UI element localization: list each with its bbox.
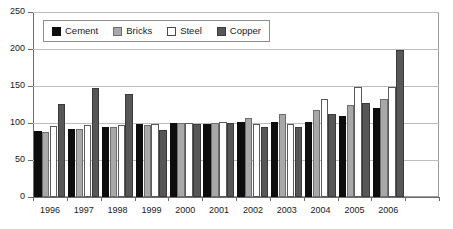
- bar-cement-2002: [237, 122, 244, 197]
- bar-steel-2002: [253, 124, 260, 197]
- x-tick-mark-2006: [371, 197, 372, 201]
- x-tick-mark-1999: [135, 197, 136, 201]
- legend-label-cement: Cement: [65, 26, 98, 36]
- bar-steel-2003: [287, 124, 294, 197]
- x-tick-label-2001: 2001: [202, 205, 236, 215]
- x-tick-mark-2003: [270, 197, 271, 201]
- x-tick-mark-end-12: [439, 197, 440, 201]
- y-tick-label-250: 250: [0, 7, 25, 16]
- bar-cement-1999: [136, 124, 143, 197]
- bar-steel-1998: [118, 125, 125, 197]
- bar-cement-2000: [170, 123, 177, 197]
- bar-cement-2005: [339, 116, 346, 197]
- y-tick-label-100: 100: [0, 118, 25, 127]
- bar-copper-2001: [227, 123, 234, 197]
- bar-bricks-2006: [380, 99, 387, 197]
- x-tick-label-1996: 1996: [33, 205, 67, 215]
- legend-label-steel: Steel: [180, 26, 202, 36]
- x-tick-mark-2001: [202, 197, 203, 201]
- x-tick-mark-1996: [33, 197, 34, 201]
- legend-swatch-steel-icon: [167, 27, 176, 36]
- bar-copper-1996: [58, 104, 65, 197]
- bar-group-2005: [339, 12, 370, 197]
- bar-bricks-1996: [42, 132, 49, 197]
- bar-steel-1996: [50, 126, 57, 197]
- bar-steel-1997: [84, 125, 91, 197]
- legend-item-cement[interactable]: Cement: [52, 26, 98, 36]
- bar-group-2003: [271, 12, 302, 197]
- x-tick-mark-1997: [67, 197, 68, 201]
- bar-bricks-1997: [76, 129, 83, 197]
- legend-swatch-cement-icon: [52, 27, 61, 36]
- y-tick-label-200: 200: [0, 44, 25, 53]
- x-tick-mark-2004: [304, 197, 305, 201]
- bar-copper-1998: [125, 94, 132, 197]
- x-tick-label-2000: 2000: [168, 205, 202, 215]
- bar-copper-2003: [295, 127, 302, 197]
- bar-cement-1997: [68, 129, 75, 197]
- bar-cement-2001: [203, 124, 210, 197]
- legend-swatch-copper-icon: [217, 27, 226, 36]
- bar-steel-2006: [388, 87, 395, 197]
- bar-cement-2004: [305, 122, 312, 197]
- x-tick-label-2004: 2004: [304, 205, 338, 215]
- bar-bricks-1998: [110, 127, 117, 197]
- bar-copper-2004: [328, 114, 335, 197]
- x-tick-label-1998: 1998: [101, 205, 135, 215]
- legend-label-copper: Copper: [230, 26, 261, 36]
- bar-bricks-1999: [144, 125, 151, 197]
- x-tick-mark-1998: [101, 197, 102, 201]
- x-tick-label-2006: 2006: [371, 205, 405, 215]
- chart-legend: CementBricksSteelCopper: [43, 20, 270, 42]
- x-tick-mark-2002: [236, 197, 237, 201]
- y-tick-label-150: 150: [0, 81, 25, 90]
- bar-bricks-2005: [347, 105, 354, 197]
- bar-group-2006: [373, 12, 404, 197]
- legend-item-steel[interactable]: Steel: [167, 26, 202, 36]
- bar-bricks-2002: [245, 118, 252, 197]
- bar-bricks-2001: [211, 123, 218, 197]
- bar-copper-2002: [261, 127, 268, 197]
- legend-item-copper[interactable]: Copper: [217, 26, 261, 36]
- bar-bricks-2004: [313, 110, 320, 197]
- bar-steel-2000: [185, 123, 192, 197]
- bar-steel-2005: [354, 87, 361, 197]
- y-tick-label-50: 50: [0, 155, 25, 164]
- bar-copper-2006: [396, 50, 403, 197]
- legend-label-bricks: Bricks: [126, 26, 152, 36]
- bar-copper-2000: [193, 124, 200, 197]
- x-tick-mark-2000: [168, 197, 169, 201]
- legend-item-bricks[interactable]: Bricks: [113, 26, 152, 36]
- y-tick-label-0: 0: [0, 192, 25, 201]
- bar-bricks-2000: [177, 123, 184, 197]
- bar-copper-1999: [159, 130, 166, 197]
- x-tick-mark-end-11: [405, 197, 406, 201]
- x-tick-label-2005: 2005: [338, 205, 372, 215]
- legend-swatch-bricks-icon: [113, 27, 122, 36]
- x-tick-label-1997: 1997: [67, 205, 101, 215]
- bar-cement-1996: [34, 131, 41, 197]
- bar-steel-1999: [151, 124, 158, 197]
- x-tick-label-2003: 2003: [270, 205, 304, 215]
- bar-copper-1997: [92, 88, 99, 197]
- bar-cement-2003: [271, 122, 278, 197]
- bar-steel-2001: [219, 122, 226, 197]
- x-tick-mark-2005: [338, 197, 339, 201]
- bar-copper-2005: [362, 103, 369, 197]
- x-tick-label-2002: 2002: [236, 205, 270, 215]
- bar-chart: 050100150200250 199619971998199920002001…: [0, 0, 453, 229]
- bar-steel-2004: [321, 99, 328, 197]
- x-tick-label-1999: 1999: [135, 205, 169, 215]
- bar-group-2004: [305, 12, 336, 197]
- bar-cement-2006: [373, 108, 380, 197]
- bar-cement-1998: [102, 127, 109, 197]
- bar-bricks-2003: [279, 114, 286, 197]
